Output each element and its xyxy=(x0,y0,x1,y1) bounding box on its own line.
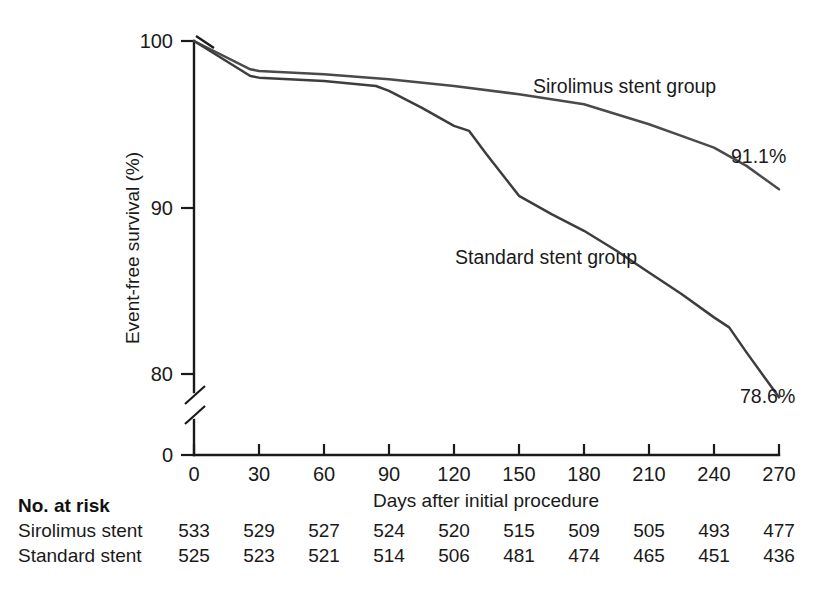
risk-row-value: 523 xyxy=(227,543,292,568)
y-axis-title: Event-free survival (%) xyxy=(122,152,143,344)
risk-row-value: 505 xyxy=(617,518,682,543)
risk-row-value: 477 xyxy=(747,518,812,543)
risk-row-value: 514 xyxy=(357,543,422,568)
y-tick-label-80: 80 xyxy=(151,363,173,385)
x-tick-label-120: 120 xyxy=(437,463,470,485)
risk-row-label: Sirolimus stent xyxy=(18,518,162,543)
risk-row-value: 506 xyxy=(422,543,487,568)
x-tick-label-90: 90 xyxy=(378,463,400,485)
risk-row-value: 524 xyxy=(357,518,422,543)
risk-row-value: 436 xyxy=(747,543,812,568)
risk-row-value: 529 xyxy=(227,518,292,543)
risk-row-value: 521 xyxy=(292,543,357,568)
risk-row-value: 474 xyxy=(552,543,617,568)
risk-row-label: Standard stent xyxy=(18,543,162,568)
number-at-risk-table: No. at risk Sirolimus stent5335295275245… xyxy=(18,494,818,568)
risk-table-heading: No. at risk xyxy=(18,494,818,517)
x-tick-label-240: 240 xyxy=(697,463,730,485)
risk-table-row: Sirolimus stent5335295275245205155095054… xyxy=(18,518,812,543)
x-ticks xyxy=(194,444,779,455)
risk-row-value: 527 xyxy=(292,518,357,543)
x-tick-label-0: 0 xyxy=(188,463,199,485)
risk-row-value: 493 xyxy=(682,518,747,543)
x-tick-label-180: 180 xyxy=(567,463,600,485)
risk-table-grid: Sirolimus stent5335295275245205155095054… xyxy=(18,518,812,568)
risk-row-value: 481 xyxy=(487,543,552,568)
risk-row-value: 451 xyxy=(682,543,747,568)
y-tick-label-100: 100 xyxy=(140,30,173,52)
risk-table-row: Standard stent52552352151450648147446545… xyxy=(18,543,812,568)
risk-row-value: 525 xyxy=(162,543,227,568)
x-tick-label-210: 210 xyxy=(632,463,665,485)
endpoint-label-standard: 78.6% xyxy=(740,385,795,407)
risk-row-value: 533 xyxy=(162,518,227,543)
x-tick-label-150: 150 xyxy=(502,463,535,485)
risk-row-value: 520 xyxy=(422,518,487,543)
series-label-sirolimus: Sirolimus stent group xyxy=(533,75,716,97)
risk-row-value: 515 xyxy=(487,518,552,543)
survival-chart-figure: 100 90 80 0 Event-free survival (%) 0 30… xyxy=(0,0,826,589)
x-tick-label-30: 30 xyxy=(248,463,270,485)
x-tick-label-60: 60 xyxy=(313,463,335,485)
risk-row-value: 509 xyxy=(552,518,617,543)
curve-sirolimus-stent-group xyxy=(194,41,779,189)
series-label-standard: Standard stent group xyxy=(455,246,637,268)
y-tick-label-90: 90 xyxy=(151,197,173,219)
x-tick-label-270: 270 xyxy=(762,463,795,485)
endpoint-label-sirolimus: 91.1% xyxy=(731,145,786,167)
x-tick-labels: 0 30 60 90 120 150 180 210 240 270 xyxy=(188,463,795,485)
risk-row-value: 465 xyxy=(617,543,682,568)
y-tick-label-0: 0 xyxy=(162,444,173,466)
